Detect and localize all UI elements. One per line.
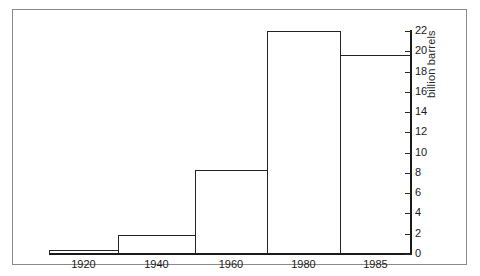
y-tick-mark	[405, 31, 411, 32]
y-tick-mark	[405, 51, 411, 52]
y-axis-title: billion barrels	[426, 30, 437, 98]
y-tick-mark	[405, 173, 411, 174]
x-tick-label: 1980	[267, 258, 340, 270]
y-tick-label: 14	[415, 106, 427, 117]
x-axis-line	[49, 253, 412, 255]
bar-1960[interactable]	[195, 170, 269, 254]
bar-1985[interactable]	[340, 55, 412, 254]
y-tick-label: 6	[415, 187, 421, 198]
y-tick-label: 12	[415, 126, 427, 137]
y-tick-label: 0	[415, 248, 421, 259]
y-tick-mark	[405, 234, 411, 235]
y-tick-mark	[405, 72, 411, 73]
x-tick-label: 1960	[195, 258, 267, 270]
y-tick-mark	[405, 132, 411, 133]
y-tick-mark	[405, 193, 411, 194]
y-axis-line	[410, 30, 412, 255]
bar-1940[interactable]	[118, 235, 197, 254]
y-tick-label: 4	[415, 207, 421, 218]
bar-1980[interactable]	[267, 31, 342, 254]
y-tick-mark	[405, 153, 411, 154]
y-tick-mark	[405, 112, 411, 113]
y-tick-label: 10	[415, 147, 427, 158]
x-tick-label: 1985	[340, 258, 411, 270]
y-tick-label: 2	[415, 228, 421, 239]
x-tick-label: 1940	[118, 258, 195, 270]
y-tick-mark	[405, 254, 411, 255]
chart-figure: 0246810121416182022 19201940196019801985…	[0, 0, 480, 276]
y-tick-label: 8	[415, 167, 421, 178]
y-tick-mark	[405, 92, 411, 93]
y-tick-mark	[405, 213, 411, 214]
figure-frame: 0246810121416182022 19201940196019801985…	[12, 9, 467, 265]
x-tick-label: 1920	[49, 258, 118, 270]
